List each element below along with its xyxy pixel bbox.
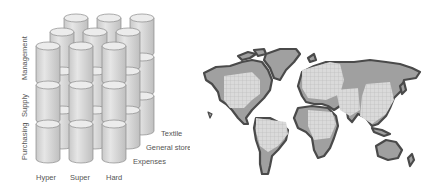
region-middle-east: [336, 88, 360, 116]
cylinder-l0-c0-r0: [36, 42, 60, 85]
australia: [376, 140, 402, 160]
axis-label-textile: Textile: [161, 129, 182, 138]
arctic-islands: [238, 52, 256, 60]
cylinder-l0-c1-r1: [69, 81, 93, 124]
axis-label-supply: Supply: [20, 94, 29, 117]
cylinder-l0-c0-r2: [36, 120, 60, 163]
axis-label-super: Super: [70, 173, 91, 182]
cylinder-l0-c1-r2: [69, 120, 93, 163]
axis-label-management: Management: [20, 35, 29, 80]
axis-label-expenses: Expenses: [133, 157, 166, 166]
world-map-graphic: [190, 0, 446, 190]
axis-label-hyper: Hyper: [36, 173, 57, 182]
axis-label-purchasing: Purchasing: [20, 122, 29, 160]
cylinder-l0-c2-r2: [102, 120, 126, 163]
cylinder-l0-c0-r1: [36, 81, 60, 124]
axis-label-hard: Hard: [106, 173, 122, 182]
axis-label-general-store: General store: [146, 143, 190, 152]
cylinder-l0-c2-r1: [102, 81, 126, 124]
horizontal-axis-labels: Hyper Super Hard: [36, 173, 122, 182]
cylinder-l0-c2-r0: [102, 42, 126, 85]
cylinder-l0-c1-r0: [69, 42, 93, 85]
cylinder-cube-graphic: Purchasing Supply Management Hyper Super…: [0, 0, 190, 190]
region-east-asia: [360, 82, 394, 124]
vertical-axis-labels: Purchasing Supply Management: [20, 35, 29, 160]
cube-diagram: Purchasing Supply Management Hyper Super…: [0, 0, 190, 190]
world-map: [190, 0, 446, 190]
